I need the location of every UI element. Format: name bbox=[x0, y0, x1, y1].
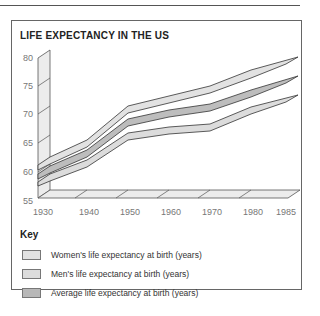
y-tick-55: 55 bbox=[23, 196, 33, 206]
x-tick-1980: 1980 bbox=[243, 207, 263, 217]
key-item-men: Men's life expectancy at birth (years) bbox=[22, 268, 189, 280]
x-tick-1985: 1985 bbox=[276, 207, 296, 217]
key-label-men: Men's life expectancy at birth (years) bbox=[51, 269, 189, 279]
x-tick-1940: 1940 bbox=[79, 207, 99, 217]
y-tick-80: 80 bbox=[23, 53, 33, 63]
x-tick-1950: 1950 bbox=[120, 207, 140, 217]
key-title: Key bbox=[20, 229, 38, 240]
key-item-women: Women's life expectancy at birth (years) bbox=[22, 249, 202, 261]
key-item-average: Average life expectancy at birth (years) bbox=[22, 287, 198, 299]
ribbon-men bbox=[38, 95, 298, 186]
y-tick-75: 75 bbox=[23, 81, 33, 91]
x-tick-1970: 1970 bbox=[202, 207, 222, 217]
swatch-men bbox=[22, 269, 41, 279]
key-label-women: Women's life expectancy at birth (years) bbox=[51, 250, 202, 260]
y-tick-70: 70 bbox=[23, 109, 33, 119]
swatch-average bbox=[22, 288, 41, 298]
swatch-women bbox=[22, 250, 41, 260]
x-tick-1960: 1960 bbox=[161, 207, 181, 217]
y-tick-65: 65 bbox=[23, 138, 33, 148]
y-tick-60: 60 bbox=[23, 167, 33, 177]
x-tick-1930: 1930 bbox=[33, 207, 53, 217]
key-label-average: Average life expectancy at birth (years) bbox=[51, 288, 198, 298]
